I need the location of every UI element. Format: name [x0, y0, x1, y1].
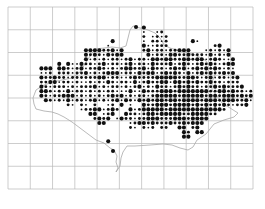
- record-dot: [169, 62, 173, 66]
- record-dot: [98, 72, 100, 74]
- record-dot: [49, 72, 52, 75]
- record-dot: [205, 58, 207, 60]
- record-dot: [196, 62, 199, 65]
- record-dot: [160, 58, 163, 61]
- record-dot: [44, 81, 47, 84]
- record-dot: [223, 68, 225, 70]
- record-dot: [98, 99, 100, 101]
- record-dot: [200, 89, 204, 93]
- record-dot: [54, 99, 56, 101]
- record-dot: [183, 76, 186, 79]
- record-dot: [227, 81, 230, 84]
- record-dot: [232, 104, 234, 106]
- record-dot: [174, 63, 176, 65]
- record-dot: [164, 75, 168, 79]
- record-dot: [182, 48, 186, 52]
- record-dot: [67, 72, 70, 75]
- record-dot: [102, 72, 105, 75]
- record-dot: [111, 99, 114, 102]
- record-dot: [111, 58, 114, 61]
- record-dot: [98, 58, 100, 60]
- record-dot: [111, 62, 114, 65]
- record-dot: [62, 76, 65, 79]
- record-dot: [186, 135, 190, 139]
- record-dot: [182, 107, 186, 111]
- record-dot: [178, 99, 181, 102]
- record-dot: [204, 116, 208, 120]
- record-dot: [62, 72, 65, 75]
- record-dot: [204, 112, 208, 116]
- record-dot: [63, 99, 65, 101]
- record-dot: [187, 122, 190, 125]
- record-dot: [232, 68, 234, 70]
- record-dot: [138, 58, 141, 61]
- record-dot: [177, 112, 181, 116]
- record-dot: [218, 53, 221, 56]
- record-dot: [116, 108, 119, 111]
- record-dot: [204, 66, 208, 70]
- record-dot: [209, 58, 212, 61]
- record-dot: [106, 53, 110, 57]
- record-dot: [116, 90, 118, 92]
- record-dot: [213, 94, 217, 98]
- record-dot: [115, 98, 119, 102]
- record-dot: [191, 112, 195, 116]
- record-dot: [152, 49, 154, 51]
- record-dot: [72, 99, 74, 101]
- record-dot: [223, 54, 225, 56]
- record-dot: [142, 117, 145, 120]
- record-dot: [173, 107, 177, 111]
- record-dot: [129, 76, 132, 79]
- record-dot: [214, 112, 217, 115]
- record-dot: [236, 90, 239, 93]
- record-dot: [89, 76, 92, 79]
- record-dot: [58, 81, 60, 83]
- record-dot: [88, 112, 92, 116]
- record-dot: [116, 94, 119, 97]
- record-dot: [115, 71, 119, 75]
- record-dot: [200, 103, 203, 106]
- record-dot: [178, 62, 181, 65]
- record-dot: [209, 90, 212, 93]
- record-dot: [195, 57, 199, 61]
- record-dot: [177, 85, 181, 89]
- record-dot: [76, 95, 78, 97]
- record-dot: [165, 122, 168, 125]
- record-dot: [107, 104, 109, 106]
- record-dot: [93, 85, 97, 89]
- record-dot: [97, 107, 101, 111]
- record-dot: [80, 72, 83, 75]
- distribution-map: [0, 0, 265, 209]
- record-dot: [137, 98, 141, 102]
- record-dot: [151, 94, 154, 97]
- record-dot: [214, 54, 216, 56]
- record-dot: [155, 107, 159, 111]
- record-dot: [195, 89, 199, 93]
- record-dot: [138, 108, 141, 111]
- record-dot: [209, 53, 213, 57]
- record-dot: [102, 75, 106, 79]
- record-dot: [200, 57, 204, 61]
- record-dot: [169, 72, 172, 75]
- record-dot: [244, 103, 248, 107]
- map-canvas: [0, 0, 265, 209]
- record-dot: [85, 99, 87, 101]
- record-dot: [71, 85, 74, 88]
- record-dot: [214, 62, 217, 65]
- record-dot: [143, 86, 145, 88]
- record-dot: [67, 86, 69, 88]
- record-dot: [188, 68, 190, 70]
- record-dot: [107, 94, 110, 97]
- record-dot: [156, 112, 159, 115]
- record-dot: [204, 89, 208, 93]
- record-dot: [146, 116, 150, 120]
- record-dot: [195, 66, 199, 70]
- record-dot: [142, 99, 145, 102]
- record-dot: [103, 113, 105, 115]
- record-dot: [120, 94, 124, 98]
- record-dot: [209, 75, 213, 79]
- record-dot: [165, 117, 168, 120]
- record-dot: [196, 76, 199, 79]
- record-dot: [139, 90, 141, 92]
- record-dot: [138, 62, 141, 65]
